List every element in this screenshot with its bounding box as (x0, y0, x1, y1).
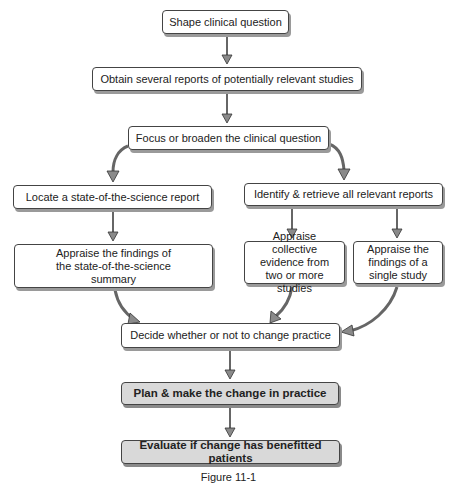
arrow-summary-to-decide (115, 290, 134, 319)
arrow-single-to-decide (350, 287, 397, 331)
node-obtain-reports: Obtain several reports of potentially re… (92, 67, 362, 91)
node-focus-broaden: Focus or broaden the clinical question (128, 126, 329, 150)
node-locate-report: Locate a state-of-the-science report (13, 185, 212, 209)
node-identify-retrieve: Identify & retrieve all relevant reports (244, 183, 443, 206)
node-decide-change: Decide whether or not to change practice (121, 323, 340, 348)
node-appraise-summary: Appraise the findings of the state-of-th… (14, 244, 213, 288)
arrow-focus-to-locate (113, 146, 128, 172)
node-evaluate-change: Evaluate if change has benefitted patien… (121, 440, 340, 464)
figure-caption: Figure 11-1 (0, 471, 457, 483)
node-appraise-single: Appraise the findings of a single study (353, 241, 443, 284)
node-shape-clinical-question: Shape clinical question (162, 10, 289, 34)
arrow-focus-to-identify (329, 144, 344, 170)
node-appraise-collective: Appraise collective evidence from two or… (244, 241, 345, 284)
node-plan-change: Plan & make the change in practice (121, 382, 339, 405)
